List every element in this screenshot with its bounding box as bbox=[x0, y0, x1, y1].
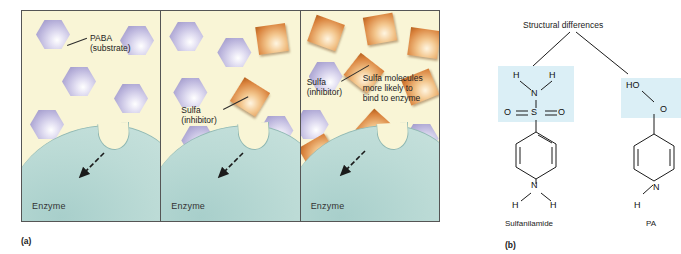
paba-callout: PABA (substrate) bbox=[90, 33, 131, 53]
sulfa-callout-line2: (inhibitor) bbox=[307, 87, 342, 97]
sulfa-molecule bbox=[256, 23, 290, 55]
panel-3: Enzyme Sulfa (inhibitor) Sulfa molecules… bbox=[300, 11, 439, 221]
binding-callout-line1: Sulfa molecules bbox=[363, 73, 423, 83]
sulfa-molecule bbox=[362, 13, 396, 46]
sulfa-molecule bbox=[307, 15, 345, 52]
binding-callout-line2: more likely to bbox=[363, 83, 423, 93]
chemical-structures: Structural differences H H N O S O N H H bbox=[448, 4, 664, 254]
paba-molecule bbox=[114, 83, 148, 114]
paba-molecule bbox=[36, 19, 70, 50]
paba-leader-line bbox=[67, 38, 87, 46]
sulfa-callout: Sulfa (inhibitor) bbox=[181, 105, 216, 125]
enzyme-label: Enzyme bbox=[171, 201, 205, 211]
sulfa-molecule bbox=[230, 77, 270, 117]
sulfa-callout-line2: (inhibitor) bbox=[181, 115, 216, 125]
active-site-arrow bbox=[213, 151, 253, 189]
substrate-inhibitor-panels: Enzyme PABA (substrate) Enzyme bbox=[21, 10, 440, 222]
paba-molecule bbox=[173, 77, 207, 108]
paba-name: PA bbox=[646, 219, 656, 228]
paba-bonds bbox=[448, 4, 664, 254]
sulfa-callout-line1: Sulfa bbox=[181, 105, 216, 115]
active-site-arrow bbox=[335, 149, 375, 187]
binding-callout-line3: bind to enzyme bbox=[363, 93, 423, 103]
part-b-label: (b) bbox=[505, 240, 516, 250]
paba-callout-line1: PABA bbox=[90, 33, 131, 43]
active-site-arrow bbox=[74, 151, 114, 189]
enzyme-label: Enzyme bbox=[311, 201, 345, 211]
paba-molecule bbox=[62, 66, 96, 97]
sulfa-callout: Sulfa (inhibitor) bbox=[307, 77, 342, 97]
paba-molecule bbox=[169, 21, 203, 52]
enzyme-label: Enzyme bbox=[32, 201, 66, 211]
paba-callout-line2: (substrate) bbox=[90, 43, 131, 53]
sulfa-callout-line1: Sulfa bbox=[307, 77, 342, 87]
panel-1: Enzyme PABA (substrate) bbox=[22, 11, 160, 221]
paba-molecule bbox=[217, 37, 251, 68]
panel-2: Enzyme Sulfa (inhibitor) bbox=[160, 11, 299, 221]
sulfa-molecule bbox=[407, 27, 439, 59]
part-a-label: (a) bbox=[21, 236, 31, 246]
binding-callout: Sulfa molecules more likely to bind to e… bbox=[363, 73, 423, 103]
